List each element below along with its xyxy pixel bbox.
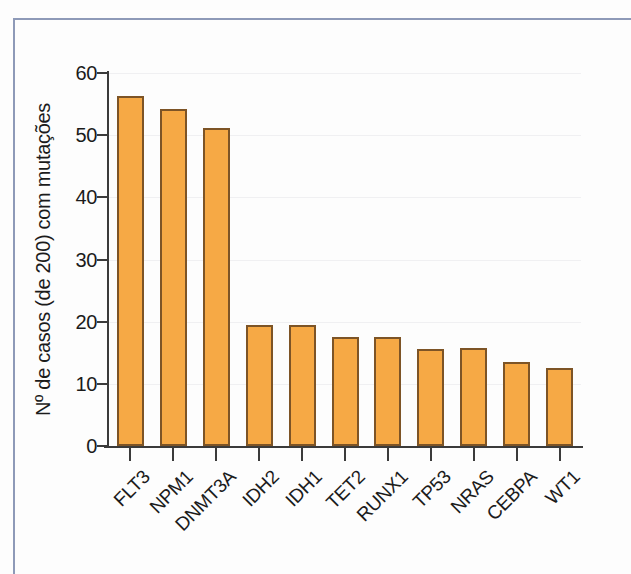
x-axis-tick-label: IDH1: [281, 466, 326, 511]
x-axis-tick: [516, 448, 518, 461]
x-axis-tick: [129, 448, 131, 461]
x-axis-tick: [215, 448, 217, 461]
x-axis-tick: [172, 448, 174, 461]
x-axis-tick: [387, 448, 389, 461]
x-axis-tick: [344, 448, 346, 461]
x-axis-tick: [430, 448, 432, 461]
bar: [117, 96, 144, 446]
bar: [160, 109, 187, 446]
x-axis-tick: [301, 448, 303, 461]
bar: [203, 128, 230, 446]
y-axis-tick: [97, 72, 108, 74]
x-axis-tick-label: IDH2: [238, 466, 283, 511]
y-axis-tick: [97, 321, 108, 323]
bar: [289, 325, 316, 446]
y-axis-tick: [97, 445, 108, 447]
y-axis-tick: [97, 383, 108, 385]
figure-page: 0102030405060 FLT3NPM1DNMT3AIDH2IDH1TET2…: [0, 0, 631, 574]
x-axis-tick: [559, 448, 561, 461]
y-axis-tick: [97, 134, 108, 136]
bar: [332, 337, 359, 446]
bar: [546, 368, 573, 446]
x-axis-tick: [258, 448, 260, 461]
x-axis-tick: [473, 448, 475, 461]
y-axis-title: Nº de casos (de 200) com mutações: [28, 73, 58, 446]
x-axis-tick-label: WT1: [541, 466, 584, 509]
bar: [374, 337, 401, 446]
y-axis-tick: [97, 259, 108, 261]
bar: [417, 349, 444, 446]
x-axis-tick-label: TP53: [409, 466, 456, 513]
bar-chart: 0102030405060 FLT3NPM1DNMT3AIDH2IDH1TET2…: [0, 0, 631, 574]
y-axis-tick: [97, 196, 108, 198]
bar: [246, 325, 273, 446]
bar: [460, 348, 487, 446]
gridline: [109, 73, 581, 74]
bar: [503, 362, 530, 446]
